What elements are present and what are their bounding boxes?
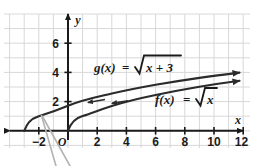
x-tick-label-2: 2 bbox=[94, 135, 101, 149]
x-tick-label--2: −2 bbox=[32, 135, 46, 149]
x-tick-label-10: 10 bbox=[207, 135, 221, 149]
x-tick-label-4: 4 bbox=[123, 135, 130, 149]
label-f-name: f(x) bbox=[155, 92, 175, 107]
y-tick-label-4: 4 bbox=[52, 66, 59, 80]
label-g-equals: = bbox=[122, 60, 129, 75]
graph-figure: −2 2 4 6 8 10 12 O 2 4 6 x y g(x) = x + … bbox=[0, 0, 253, 166]
y-axis-name: y bbox=[73, 13, 81, 27]
y-tick-label-2: 2 bbox=[52, 95, 59, 109]
label-f-equals: = bbox=[183, 92, 190, 107]
y-tick-label-6: 6 bbox=[52, 37, 59, 51]
x-axis-name: x bbox=[234, 113, 241, 127]
x-tick-label-8: 8 bbox=[181, 135, 188, 149]
x-tick-label-6: 6 bbox=[152, 135, 159, 149]
label-g-radicand: x + 3 bbox=[145, 60, 173, 75]
graph-svg: −2 2 4 6 8 10 12 O 2 4 6 x y g(x) = x + … bbox=[0, 0, 253, 166]
label-g-name: g(x) bbox=[93, 60, 116, 75]
x-tick-label-12: 12 bbox=[235, 135, 249, 149]
label-f-radicand: x bbox=[206, 92, 214, 107]
